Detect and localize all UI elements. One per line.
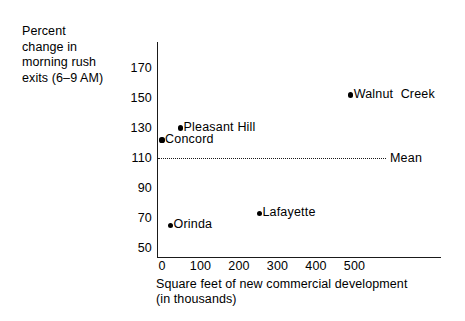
x-tick-500: 500: [332, 259, 378, 273]
data-point-label: Orinda: [173, 218, 212, 231]
scatter-plot-figure: Percent change in morning rush exits (6–…: [0, 0, 465, 321]
y-tick-150: 150: [118, 92, 152, 105]
y-tick-50: 50: [118, 242, 152, 255]
y-tick-label: 130: [118, 122, 152, 135]
y-tick-110: 110: [118, 152, 152, 165]
plot-area: 507090110130150170 0100200300400500 Mean…: [0, 0, 465, 321]
mean-reference-line: [158, 158, 386, 159]
y-axis-line: [157, 42, 158, 258]
data-point-marker: [159, 137, 164, 142]
data-point-marker: [257, 211, 262, 216]
data-point-marker: [178, 125, 183, 130]
x-tick-label: 500: [332, 259, 378, 273]
data-point-marker: [348, 92, 353, 97]
data-point-label: Concord: [165, 133, 214, 146]
y-tick-90: 90: [118, 182, 152, 195]
y-tick-170: 170: [118, 62, 152, 75]
y-tick-label: 90: [118, 182, 152, 195]
data-point-label: Lafayette: [262, 206, 315, 219]
mean-reference-label: Mean: [390, 152, 422, 165]
y-tick-label: 50: [118, 242, 152, 255]
y-tick-70: 70: [118, 212, 152, 225]
x-axis-caption: Square feet of new commercial developmen…: [156, 277, 456, 307]
y-tick-label: 70: [118, 212, 152, 225]
y-tick-130: 130: [118, 122, 152, 135]
y-tick-label: 170: [118, 62, 152, 75]
data-point-label: Walnut Creek: [354, 88, 435, 101]
y-tick-label: 110: [118, 152, 152, 165]
y-tick-label: 150: [118, 92, 152, 105]
data-point-marker: [168, 223, 173, 228]
